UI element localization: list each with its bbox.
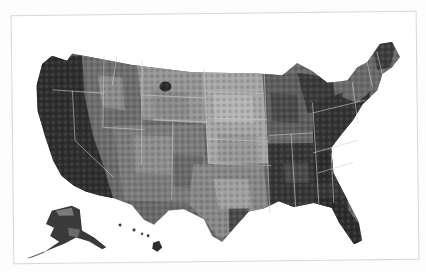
alaska bbox=[28, 205, 107, 258]
us-county-choropleth-map bbox=[12, 12, 419, 264]
hawaii bbox=[118, 223, 162, 252]
map-frame bbox=[11, 11, 420, 265]
page bbox=[0, 0, 426, 272]
